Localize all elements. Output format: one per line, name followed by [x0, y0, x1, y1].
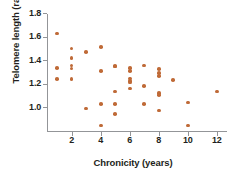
data-point	[128, 81, 132, 85]
x-axis-ticks: 24681012	[47, 14, 227, 132]
x-tick-label-slot: 4	[89, 135, 113, 147]
data-point	[157, 109, 161, 113]
scatter-plot-figure: Telomere length (ratio) 1.01.21.41.61.8 …	[0, 0, 235, 176]
data-point	[99, 45, 103, 49]
y-tick-label: 1.8	[29, 8, 41, 18]
x-tick-label-slot: 12	[205, 135, 229, 147]
y-tick-label: 1.0	[29, 102, 41, 112]
y-tick-label: 1.6	[29, 31, 41, 41]
data-point	[84, 50, 88, 54]
data-point	[113, 112, 117, 116]
data-point	[142, 84, 146, 88]
x-tick-label: 8	[147, 135, 171, 145]
x-tick-label: 4	[89, 135, 113, 145]
data-point	[142, 102, 146, 106]
x-tick-label-slot: 10	[176, 135, 200, 147]
y-tick-label-slot: 1.8	[5, 8, 41, 19]
data-point	[157, 67, 161, 71]
x-tick-label: 6	[118, 135, 142, 145]
x-tick-label-slot: 2	[60, 135, 84, 147]
y-tick-label: 1.2	[29, 78, 41, 88]
y-tick-label-slot: 1.0	[5, 102, 41, 113]
x-tick-label: 2	[60, 135, 84, 145]
y-tick-label-slot: 1.2	[5, 78, 41, 89]
data-point	[55, 77, 59, 81]
data-point	[55, 66, 59, 70]
y-tick-label: 1.4	[29, 55, 41, 65]
x-axis-title: Chronicity (years)	[40, 157, 226, 168]
x-tick-label-slot: 6	[118, 135, 142, 147]
data-point	[99, 102, 103, 106]
data-point	[157, 93, 161, 97]
data-point	[215, 90, 219, 94]
data-point	[113, 102, 117, 106]
y-tick-label-slot: 1.6	[5, 31, 41, 42]
data-point	[157, 74, 161, 78]
data-point	[128, 87, 132, 91]
y-tick-label-slot: 1.4	[5, 55, 41, 66]
data-point	[128, 69, 132, 73]
x-tick-label: 10	[176, 135, 200, 145]
data-point	[99, 69, 103, 73]
x-tick-label-slot: 8	[147, 135, 171, 147]
x-tick-label: 12	[205, 135, 229, 145]
plot-area: 1.01.21.41.61.8 24681012	[47, 14, 227, 132]
